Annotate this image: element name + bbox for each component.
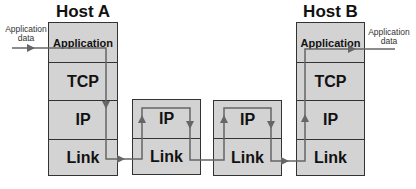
router-2-stack: IP Link [213, 100, 282, 176]
router-1-stack: IP Link [132, 99, 201, 175]
host-a-stack: Application TCP IP Link [48, 22, 118, 176]
host-a-tcp-layer: TCP [49, 62, 117, 100]
router-1-link-layer: Link [133, 138, 200, 175]
router-1-ip-layer: IP [133, 100, 200, 138]
host-a-title: Host A [48, 2, 118, 22]
host-b-ip-layer: IP [297, 100, 364, 139]
input-data-label: Application data [4, 25, 48, 43]
router-2-ip-layer: IP [214, 101, 281, 138]
host-a-link-layer: Link [49, 139, 117, 176]
output-data-label-line2: data [366, 37, 412, 46]
host-b-tcp-layer: TCP [297, 62, 364, 100]
host-b-title: Host B [296, 2, 365, 22]
host-b-link-layer: Link [297, 139, 364, 176]
host-b-application-layer: Application [297, 23, 364, 62]
output-data-label: Application data [366, 28, 412, 46]
input-data-label-line2: data [4, 34, 48, 43]
host-b-stack: Application TCP IP Link [296, 22, 365, 176]
host-a-ip-layer: IP [49, 100, 117, 139]
host-a-application-layer: Application [49, 23, 117, 62]
router-2-link-layer: Link [214, 138, 281, 176]
